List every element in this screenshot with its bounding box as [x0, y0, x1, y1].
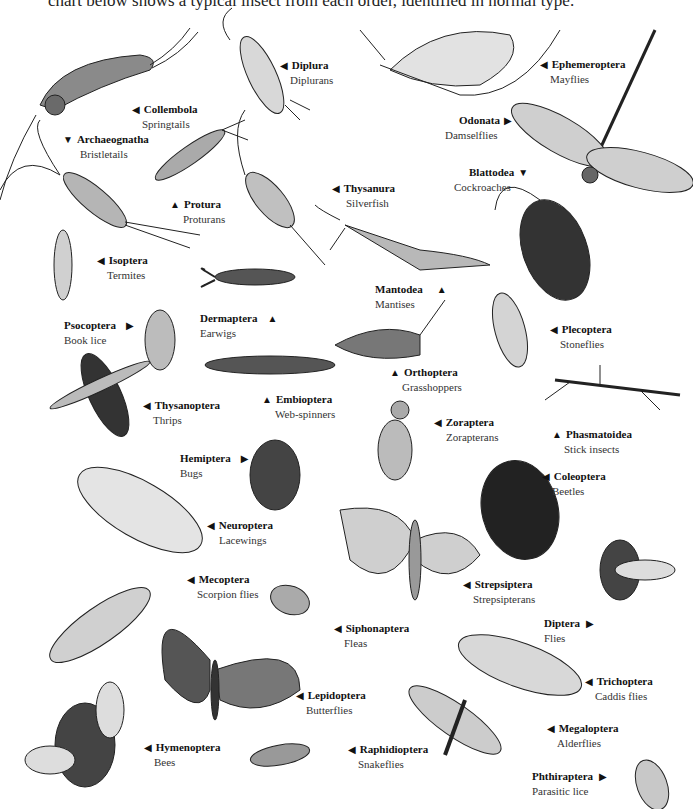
order-name: Lepidoptera — [308, 689, 366, 701]
common-name: Zorapterans — [430, 430, 499, 444]
label-raphidioptera: ◀Raphidioptera Snakeflies — [344, 742, 428, 771]
arrow-up-icon: ▲ — [262, 393, 272, 407]
order-name: Megaloptera — [559, 722, 619, 734]
arrow-left-icon: ◀ — [132, 103, 140, 117]
arrow-left-icon: ◀ — [143, 399, 151, 413]
label-strepsiptera: ◀Strepsiptera Strepsipterans — [459, 577, 535, 606]
common-name: Stoneflies — [546, 337, 612, 351]
label-blattodea: Blattodea▼ Cockroaches — [454, 165, 532, 194]
order-name: Thysanoptera — [155, 399, 220, 411]
order-name: Diptera — [544, 617, 580, 629]
louse-illustration — [629, 755, 675, 809]
order-name: Archaeognatha — [77, 133, 149, 145]
label-coleoptera: ◀Coleoptera Beetles — [538, 469, 606, 498]
label-hymenoptera: ◀Hymenoptera Bees — [140, 740, 220, 769]
common-name: Mantises — [375, 297, 451, 311]
arrow-right-icon: ▶ — [504, 114, 512, 128]
arrow-right-icon: ▶ — [241, 452, 249, 466]
label-ephemeroptera: ◀Ephemeroptera Mayflies — [536, 57, 625, 86]
order-name: Hymenoptera — [156, 741, 221, 753]
common-name: Snakeflies — [344, 757, 428, 771]
bug-illustration — [250, 440, 300, 510]
order-name: Embioptera — [276, 393, 332, 405]
arrow-left-icon: ◀ — [187, 573, 195, 587]
common-name: Lacewings — [203, 533, 273, 547]
label-thysanura: ◀Thysanura Silverfish — [328, 181, 395, 210]
arrow-left-icon: ◀ — [97, 254, 105, 268]
common-name: Termites — [93, 268, 148, 282]
common-name: Book lice — [64, 333, 138, 347]
arrow-up-icon: ▲ — [552, 428, 562, 442]
order-name: Orthoptera — [404, 366, 458, 378]
webspinner-illustration — [205, 356, 335, 374]
common-name: Mayflies — [536, 72, 625, 86]
label-trichoptera: ◀Trichoptera Caddis flies — [581, 674, 653, 703]
order-name: Siphonaptera — [346, 622, 410, 634]
label-collembola: ◀Collembola Springtails — [128, 102, 197, 131]
stick-insect-illustration — [545, 365, 680, 410]
order-name: Neuroptera — [219, 519, 273, 531]
order-name: Psocoptera — [64, 319, 116, 331]
flea-illustration — [266, 580, 313, 620]
common-name: Web-spinners — [258, 407, 335, 421]
mantis-illustration — [315, 205, 490, 270]
label-thysanoptera: ◀Thysanoptera Thrips — [139, 398, 220, 427]
label-embioptera: ▲Embioptera Web-spinners — [258, 392, 335, 421]
cockroach-illustration — [495, 187, 603, 310]
label-plecoptera: ◀Plecoptera Stoneflies — [546, 322, 612, 351]
order-name: Phthiraptera — [532, 770, 593, 782]
order-name: Hemiptera — [180, 452, 231, 464]
common-name: Alderflies — [543, 736, 619, 750]
label-zoraptera: ◀Zoraptera Zorapterans — [430, 415, 499, 444]
common-name: Flies — [544, 631, 598, 645]
order-name: Protura — [184, 198, 221, 210]
arrow-down-icon: ▼ — [63, 133, 73, 147]
common-name: Earwigs — [200, 326, 281, 340]
common-name: Scorpion flies — [183, 587, 258, 601]
arrow-left-icon: ◀ — [547, 722, 555, 736]
arrow-left-icon: ◀ — [550, 323, 558, 337]
arrow-left-icon: ◀ — [144, 741, 152, 755]
arrow-left-icon: ◀ — [540, 58, 548, 72]
earwig-illustration — [202, 269, 295, 287]
arrow-left-icon: ◀ — [585, 675, 593, 689]
arrow-left-icon: ◀ — [434, 416, 442, 430]
order-name: Coleoptera — [554, 470, 606, 482]
label-diplura: ◀Diplura Diplurans — [276, 58, 333, 87]
termite-illustration — [54, 230, 72, 300]
mayfly-illustration — [360, 30, 560, 95]
label-archaeognatha: ▼Archaeognatha Bristletails — [59, 132, 149, 161]
order-name: Dermaptera — [200, 312, 257, 324]
arrow-up-icon: ▲ — [390, 366, 400, 380]
common-name: Beetles — [538, 484, 606, 498]
label-mecoptera: ◀Mecoptera Scorpion flies — [183, 572, 258, 601]
arrow-left-icon: ◀ — [463, 578, 471, 592]
order-name: Ephemeroptera — [552, 58, 626, 70]
label-hemiptera: Hemiptera▶ Bugs — [180, 451, 252, 480]
thrips-illustration — [48, 347, 153, 442]
order-name: Plecoptera — [562, 323, 612, 335]
arrow-up-icon: ▲ — [437, 283, 447, 297]
arrow-left-icon: ◀ — [207, 519, 215, 533]
common-name: Thrips — [139, 413, 220, 427]
label-dermaptera: Dermaptera▲ Earwigs — [200, 311, 281, 340]
stonefly-illustration — [486, 289, 535, 370]
common-name: Bees — [140, 755, 220, 769]
common-name: Parasitic lice — [532, 784, 611, 798]
common-name: Cockroaches — [454, 180, 532, 194]
arrow-left-icon: ◀ — [280, 59, 288, 73]
order-name: Phasmatoidea — [566, 428, 632, 440]
order-name: Thysanura — [344, 182, 395, 194]
order-name: Raphidioptera — [360, 743, 428, 755]
arrow-up-icon: ▲ — [170, 198, 180, 212]
arrow-left-icon: ◀ — [542, 470, 550, 484]
common-name: Bugs — [180, 466, 252, 480]
arrow-left-icon: ◀ — [334, 622, 342, 636]
arrow-right-icon: ▶ — [599, 770, 607, 784]
order-name: Mantodea — [375, 283, 423, 295]
label-isoptera: ◀Isoptera Termites — [93, 253, 148, 282]
fly-illustration — [600, 540, 675, 600]
common-name: Strepsipterans — [459, 592, 535, 606]
common-name: Bristletails — [59, 147, 149, 161]
label-protura: ▲Protura Proturans — [166, 197, 225, 226]
